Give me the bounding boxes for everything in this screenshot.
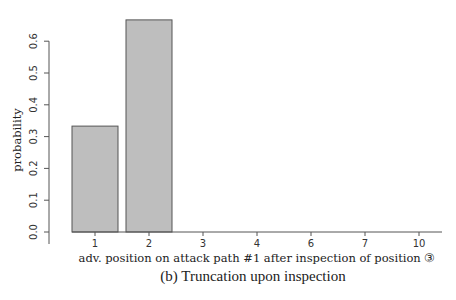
x-tick-label: 2 <box>146 238 152 249</box>
x-tick-label: 7 <box>362 238 368 249</box>
bar-chart: 0.00.10.20.30.40.50.6 12346710 probabili… <box>0 0 456 300</box>
bar-1 <box>72 126 118 232</box>
figure-caption: (b) Truncation upon inspection <box>0 268 456 285</box>
y-tick-label: 0.3 <box>28 129 39 145</box>
x-tick-label: 6 <box>308 238 314 249</box>
y-tick-label: 0.5 <box>28 65 39 81</box>
y-tick-label: 0.4 <box>28 97 39 113</box>
y-tick-label: 0.1 <box>28 192 39 208</box>
x-tick-label: 3 <box>200 238 206 249</box>
y-tick-label: 0.6 <box>28 33 39 49</box>
x-tick-label: 10 <box>413 238 426 249</box>
chart-canvas: 0.00.10.20.30.40.50.6 12346710 probabili… <box>0 0 456 300</box>
x-axis-title: adv. position on attack path #1 after in… <box>79 251 436 265</box>
x-tick-label: 4 <box>254 238 260 249</box>
x-axis: 12346710 <box>72 232 442 249</box>
y-tick-label: 0.2 <box>28 160 39 176</box>
bars <box>72 20 172 232</box>
bar-2 <box>126 20 172 232</box>
y-axis-title: probability <box>10 108 24 172</box>
x-tick-label: 1 <box>92 238 98 249</box>
y-axis: 0.00.10.20.30.40.50.6 <box>28 33 49 244</box>
y-tick-label: 0.0 <box>28 224 39 240</box>
